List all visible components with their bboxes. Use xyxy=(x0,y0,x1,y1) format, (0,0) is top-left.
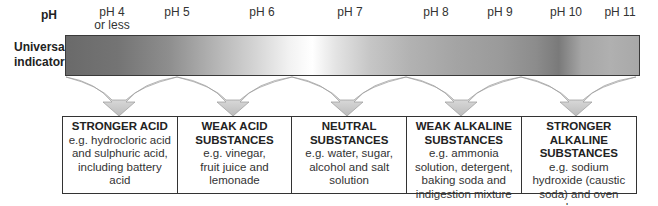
category-title: STRONGER ACID xyxy=(63,120,177,134)
category-description: e.g. hydrocloric acid and sulphuric acid… xyxy=(63,134,177,188)
category-title: WEAK ALKALINE SUBSTANCES xyxy=(407,120,521,147)
category-weak-alkaline: WEAK ALKALINE SUBSTANCES e.g. ammonia so… xyxy=(407,117,522,193)
category-description: e.g. water, sugar, alcohol and salt solu… xyxy=(292,147,406,188)
category-weak-acid: WEAK ACID SUBSTANCES e.g. vinegar, fruit… xyxy=(178,117,293,193)
arrow-down-icon xyxy=(292,77,406,116)
category-stronger-acid: STRONGER ACID e.g. hydrocloric acid and … xyxy=(63,117,178,193)
arrow-down-icon xyxy=(66,77,177,116)
category-title: NEUTRAL SUBSTANCES xyxy=(292,120,406,147)
category-description: e.g. ammonia solution, detergent, baking… xyxy=(407,147,521,201)
category-stronger-alkaline: STRONGER ALKALINE SUBSTANCES e.g. sodium… xyxy=(522,117,636,193)
category-title: STRONGER ALKALINE SUBSTANCES xyxy=(522,120,636,161)
category-title: WEAK ACID SUBSTANCES xyxy=(178,120,292,147)
arrow-down-icon xyxy=(177,77,292,116)
category-neutral: NEUTRAL SUBSTANCES e.g. water, sugar, al… xyxy=(292,117,407,193)
category-description: e.g. vinegar, fruit juice and lemonade xyxy=(178,147,292,188)
substance-categories-table: STRONGER ACID e.g. hydrocloric acid and … xyxy=(62,116,637,194)
arrow-down-icon xyxy=(406,77,521,116)
category-description: e.g. sodium hydroxide (caustic soda) and… xyxy=(522,161,636,206)
arrow-down-icon xyxy=(521,77,636,116)
